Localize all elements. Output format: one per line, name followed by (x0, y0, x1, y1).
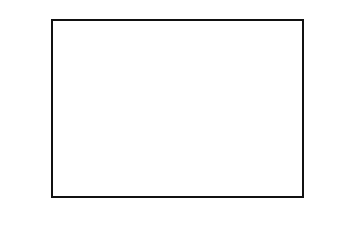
plot-area (51, 19, 304, 198)
y-axis-label (4, 60, 18, 170)
